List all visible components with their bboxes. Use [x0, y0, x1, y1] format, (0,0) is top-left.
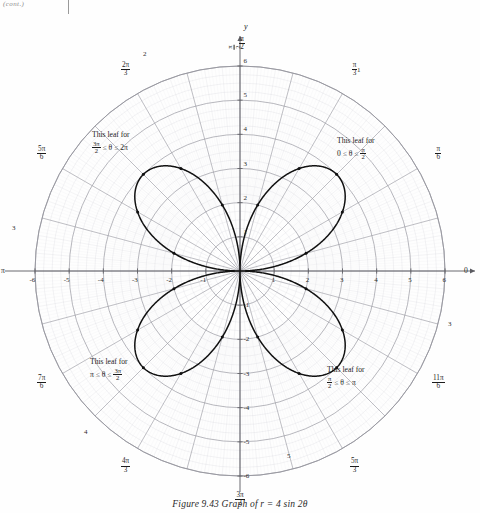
radial-callout-left-3: 3 [12, 224, 16, 232]
radial-callout-right-3: 3 [448, 320, 452, 328]
angle-label-150-fraction: 5π6 [37, 146, 46, 161]
leaf-note-q2-range: π2 ≤ θ ≤ π [327, 376, 365, 390]
angle-label-330: 11π6 [427, 375, 449, 390]
leaf-note-q3-fraction: 3π2 [113, 368, 122, 382]
leaf-note-q1-line1: This leaf for [337, 137, 375, 146]
x-tick-neg2: -2 [166, 276, 172, 284]
x-tick-neg4: -4 [98, 276, 104, 284]
leaf-note-q4-den: 2 [92, 148, 101, 155]
y-tick-2: 2 [244, 194, 248, 202]
angle-label-330-fraction: 11π6 [432, 375, 445, 390]
angle-label-150-den: 6 [37, 154, 46, 161]
x-tick-1: 1 [272, 276, 276, 284]
angle-label-240-fraction: 4π3 [121, 458, 130, 473]
angle-label-300: 5π3 [344, 458, 366, 473]
y-tick-neg1: -1 [244, 301, 250, 309]
angle-label-90-vertical-fraction: π2 [227, 44, 241, 49]
angle-label-30-den: 6 [435, 154, 441, 161]
angle-label-90-vertical: π2 [227, 44, 241, 49]
y-tick-neg3: -3 [244, 370, 250, 378]
angle-label-120: 2π3 [115, 62, 137, 77]
radial-callout-5: 5 [287, 452, 291, 460]
angle-label-300-fraction: 5π3 [350, 458, 359, 473]
angle-label-330-den: 6 [432, 383, 445, 390]
leaf-note-q1-den: 2 [360, 154, 365, 161]
leaf-note-q1: This leaf for 0 ≤ θ ≤ π2 [337, 137, 375, 161]
angle-label-210-fraction: 7π6 [37, 375, 46, 390]
x-tick-neg1: -1 [200, 276, 206, 284]
angle-label-120-fraction: 2π3 [121, 62, 130, 77]
leaf-note-q1-prefix: 0 ≤ θ ≤ [337, 149, 360, 158]
figure-page: (cont.) π6π3π22π35π67π64π33π25π311π6 1-1… [0, 0, 480, 513]
angle-label-240: 4π3 [115, 458, 137, 473]
angle-label-210-den: 6 [37, 383, 46, 390]
leaf-note-q4-range: 3π2 ≤ θ ≤ 2π [92, 141, 130, 155]
y-axis-label: y [244, 22, 248, 31]
angle-label-300-den: 3 [350, 467, 359, 474]
leaf-note-q3-range: π ≤ θ ≤ 3π2 [90, 368, 128, 382]
angle-label-30: π6 [427, 146, 449, 161]
radial-callout-4: 4 [84, 428, 88, 436]
y-tick-4: 4 [244, 125, 248, 133]
radial-callout-2: 2 [143, 50, 147, 58]
leaf-note-q4-line1: This leaf for [92, 131, 130, 140]
figure-caption: Figure 9.43 Graph of r = 4 sin 2θ [0, 494, 480, 513]
y-tick-1: 1 [244, 228, 248, 236]
y-tick-neg5: -5 [244, 438, 250, 446]
leaf-note-q3-prefix: π ≤ θ ≤ [90, 370, 113, 379]
y-tick-neg6: -6 [244, 472, 250, 480]
leaf-note-q4: This leaf for 3π2 ≤ θ ≤ 2π [92, 131, 130, 155]
leaf-note-q4-suffix: ≤ θ ≤ 2π [101, 143, 128, 152]
angle-label-240-den: 3 [121, 467, 130, 474]
leaf-note-q3-den: 2 [113, 375, 122, 382]
angle-label-150: 5π6 [31, 146, 53, 161]
x-tick-neg3: -3 [132, 276, 138, 284]
y-tick-neg2: -2 [244, 335, 250, 343]
angle-label-90-vertical-den: 2 [234, 44, 241, 49]
y-tick-neg4: -4 [244, 404, 250, 412]
x-tick-4: 4 [374, 276, 378, 284]
angle-label-210: 7π6 [31, 375, 53, 390]
radial-callout-1: 1 [357, 66, 361, 74]
angle-label-60: π3 [344, 62, 366, 77]
leaf-note-q2-line1: This leaf for [327, 366, 365, 375]
x-tick-6: 6 [443, 276, 447, 284]
x-tick-2: 2 [306, 276, 310, 284]
x-tick-3: 3 [340, 276, 344, 284]
y-tick-5: 5 [244, 91, 248, 99]
leaf-note-q4-fraction: 3π2 [92, 141, 101, 155]
y-tick-3: 3 [244, 160, 248, 168]
origin-label: 0 [464, 266, 468, 275]
leaf-note-q3: This leaf for π ≤ θ ≤ 3π2 [90, 358, 128, 382]
leaf-note-q2-suffix: ≤ θ ≤ π [332, 378, 355, 387]
polar-plot-area: π6π3π22π35π67π64π33π25π311π6 1-11-12-22-… [0, 0, 480, 492]
y-tick-6: 6 [244, 57, 248, 65]
angle-label-pi: π [1, 266, 5, 275]
angle-label-120-den: 3 [121, 70, 130, 77]
x-tick-neg5: -5 [64, 276, 70, 284]
leaf-note-q3-line1: This leaf for [90, 358, 128, 367]
leaf-note-q1-range: 0 ≤ θ ≤ π2 [337, 147, 375, 161]
x-tick-neg6: -6 [30, 276, 36, 284]
leaf-note-q1-fraction: π2 [360, 147, 365, 161]
x-tick-5: 5 [408, 276, 412, 284]
polar-grid-svg [0, 0, 480, 492]
angle-label-30-fraction: π6 [435, 146, 441, 161]
leaf-note-q2: This leaf for π2 ≤ θ ≤ π [327, 366, 365, 390]
